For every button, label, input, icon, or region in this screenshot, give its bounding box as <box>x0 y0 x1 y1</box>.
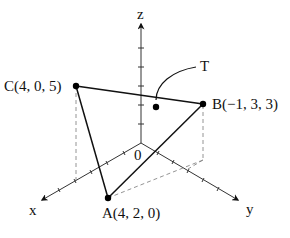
t-pointer-curve <box>156 67 196 100</box>
point-b-label: B(−1, 3, 3) <box>212 96 278 113</box>
point-c-label: C(4, 0, 5) <box>4 78 62 95</box>
point-c <box>73 83 79 89</box>
x-axis-label: x <box>29 202 37 218</box>
triangle-t-label: T <box>200 58 209 74</box>
x-axis <box>42 143 141 200</box>
point-a-label: A(4, 2, 0) <box>102 205 160 222</box>
point-a <box>105 195 111 201</box>
coordinate-diagram: z x y 0 C(4, 0, 5) B(−1, 3, 3) A(4, 2, 0… <box>0 0 290 238</box>
origin-label: 0 <box>134 147 142 163</box>
projection-lines <box>76 86 203 198</box>
z-axis <box>138 24 144 143</box>
triangle-t <box>76 86 203 198</box>
point-b <box>200 101 206 107</box>
y-axis-label: y <box>246 201 254 217</box>
z-axis-label: z <box>137 6 144 22</box>
t-marker-point <box>153 104 159 110</box>
